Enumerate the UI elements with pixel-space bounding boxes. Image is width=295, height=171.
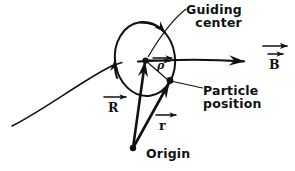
guiding-center-leader-line [148, 9, 186, 57]
origin-point [130, 145, 136, 151]
gyroradius-vector-label: ρ [157, 59, 164, 72]
physics-diagram: Guidingcenter Particleposition Origin B … [0, 0, 295, 171]
particle-position-label: Particleposition [203, 84, 262, 111]
magnetic-field-vector-label: B [269, 57, 280, 72]
gyration-direction-arrow [140, 23, 165, 33]
particle-position-leader-line [173, 82, 203, 89]
trajectory-left-curve [12, 63, 122, 126]
guiding-center-point [142, 57, 148, 63]
particle-position-point [167, 77, 174, 84]
guiding-center-label: Guidingcenter [186, 3, 242, 30]
particle-position-label-line2: position [203, 97, 262, 110]
origin-label: Origin [146, 147, 190, 160]
guiding-center-vector-label: R [108, 100, 118, 115]
particle-vector-label: r [159, 118, 166, 133]
guiding-center-label-line2: center [186, 16, 242, 29]
